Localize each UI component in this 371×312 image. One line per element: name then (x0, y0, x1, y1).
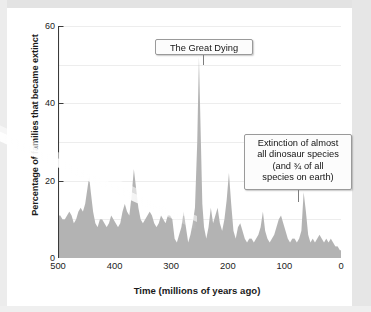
x-tick-label-400: 400 (98, 260, 132, 271)
x-tick-label-500: 500 (41, 260, 75, 271)
page-edge-bottom (0, 306, 371, 312)
y-tick-label-40: 40 (33, 98, 55, 108)
callout-great-dying-leader-line (203, 55, 204, 65)
y-axis-tick-labels: 6040200 (29, 26, 55, 258)
x-tick-label-0: 0 (324, 260, 358, 271)
page-edge-left (0, 0, 7, 312)
x-axis-tick-labels: 5004003002001000 (58, 260, 341, 276)
x-tick-label-200: 200 (211, 260, 245, 271)
callout-dinosaur-line-4: species on earth) (249, 172, 347, 183)
callout-dinosaur-extinction: Extinction of almost all dinosaur specie… (244, 134, 352, 190)
callout-dinosaur-line-3: (and ¾ of all (249, 161, 347, 172)
callout-dinosaur-line-1: Extinction of almost (249, 138, 347, 149)
x-tick-label-100: 100 (267, 260, 301, 271)
x-axis-title: Time (millions of years ago) (47, 285, 347, 296)
callout-great-dying-text: The Great Dying (170, 43, 238, 53)
callout-great-dying: The Great Dying (155, 39, 253, 55)
y-tick-label-60: 60 (33, 21, 55, 31)
page-edge-top (0, 0, 371, 8)
callout-dinosaur-leader-line (298, 190, 299, 202)
x-tick-label-300: 300 (154, 260, 188, 271)
callout-dinosaur-line-2: all dinosaur species (249, 149, 347, 160)
y-tick-label-20: 20 (33, 176, 55, 186)
extinction-chart-figure: Percentage of families that became extin… (7, 8, 352, 306)
